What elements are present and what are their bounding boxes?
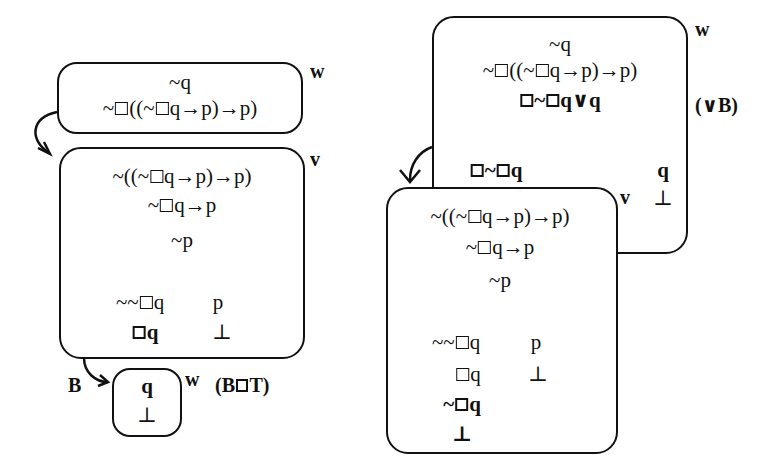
branch-right: p: [213, 290, 224, 314]
branch-right: ⊥: [653, 186, 673, 210]
formula: ~((~q→p)→p): [430, 204, 569, 228]
rule-label: (BT): [215, 374, 269, 396]
branch-left: ~q: [470, 158, 523, 182]
formula: ~p: [171, 228, 193, 252]
formula: ~q→p: [148, 193, 216, 217]
branch-right: ⊥: [212, 320, 232, 344]
formula: q: [141, 374, 153, 398]
formula: ~((~q→p)→p): [112, 164, 251, 188]
formula: ~q: [169, 70, 191, 94]
formula: ~q→p: [466, 235, 534, 259]
world-label: v: [620, 186, 630, 208]
world-label: v: [310, 148, 320, 170]
branch-left: ~~q: [432, 330, 480, 354]
branch-right: p: [531, 330, 542, 354]
branch-left: q: [132, 320, 159, 344]
world-label: w: [185, 368, 199, 390]
branch-left: ~q: [443, 392, 481, 416]
formula: ~q: [549, 32, 571, 56]
arrow-label: B: [68, 374, 81, 396]
branch-left: ~~q: [116, 290, 164, 314]
branch-left: ⊥: [452, 422, 472, 446]
formula: ⊥: [137, 403, 157, 427]
formula: ~((~q→p)→p): [103, 96, 257, 120]
formula: ~p: [489, 268, 511, 292]
formula: ~((~q→p)→p): [483, 58, 637, 82]
formula: ~q∨q: [519, 88, 600, 112]
branch-left: q: [455, 362, 481, 386]
rule-label: (∨B): [695, 94, 738, 116]
world-label: w: [695, 18, 709, 40]
branch-right: ⊥: [528, 362, 548, 386]
world-label: w: [310, 60, 324, 82]
branch-right: q: [657, 158, 669, 182]
